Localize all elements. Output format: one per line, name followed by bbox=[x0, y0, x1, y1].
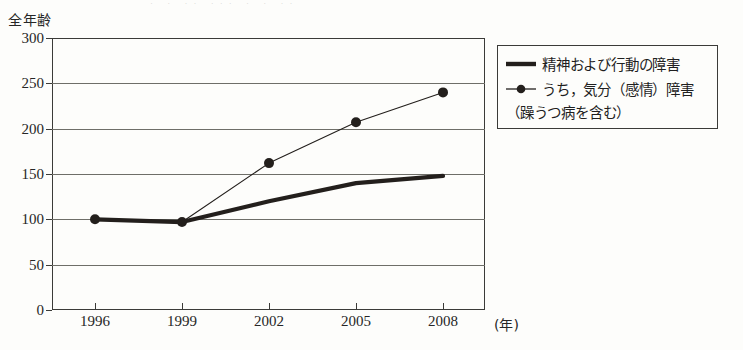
x-axis-tick-mark bbox=[269, 303, 270, 310]
y-axis-tick-label: 300 bbox=[22, 31, 45, 46]
x-axis-tick-label: 1999 bbox=[167, 314, 197, 329]
y-axis-tick-label: 0 bbox=[37, 303, 45, 318]
data-point-marker bbox=[438, 87, 448, 97]
y-axis-tick-label: 200 bbox=[22, 121, 45, 136]
x-axis-tick-label: 2005 bbox=[341, 314, 371, 329]
y-axis-tick-mark bbox=[46, 219, 52, 220]
thick-line-sample-icon bbox=[504, 55, 538, 73]
x-axis-tick-mark bbox=[443, 303, 444, 310]
x-axis-unit-label: (年) bbox=[494, 314, 519, 334]
legend-label-1-continuation: （躁うつ病を含む） bbox=[504, 101, 717, 126]
y-axis-tick-mark bbox=[46, 83, 52, 84]
legend-label-1: うち，気分（感情）障害 bbox=[542, 78, 694, 99]
legend-label-0: 精神および行動の障害 bbox=[542, 53, 680, 74]
series-line bbox=[95, 176, 443, 222]
y-axis-tick-mark bbox=[46, 174, 52, 175]
plot-area bbox=[52, 38, 485, 310]
legend-item-0: 精神および行動の障害 bbox=[504, 51, 717, 76]
y-axis-tick-label: 250 bbox=[22, 76, 45, 91]
data-point-marker bbox=[351, 117, 361, 127]
y-axis-tick-label: 150 bbox=[22, 167, 45, 182]
data-point-marker bbox=[264, 158, 274, 168]
y-axis-tick-mark bbox=[46, 38, 52, 39]
chart-unit-caption: 全年齢 bbox=[8, 9, 52, 29]
chart-legend: 精神および行動の障害 うち，気分（感情）障害 （躁うつ病を含む） bbox=[497, 45, 718, 129]
series-0 bbox=[95, 176, 443, 222]
x-axis-tick-label: 2002 bbox=[254, 314, 284, 329]
x-axis-tick-mark bbox=[95, 303, 96, 310]
line-chart: 全年齢 050100150200250300 19961999200220052… bbox=[0, 0, 743, 350]
x-axis-tick-mark bbox=[182, 303, 183, 310]
series-1 bbox=[90, 87, 448, 227]
line-circle-sample-icon bbox=[504, 80, 538, 98]
y-axis-tick-label: 50 bbox=[29, 257, 44, 272]
y-axis-tick-label: 100 bbox=[22, 212, 45, 227]
y-axis-tick-mark bbox=[46, 310, 52, 311]
x-axis-tick-label: 1996 bbox=[80, 314, 110, 329]
series-layer bbox=[52, 38, 485, 310]
legend-item-1: うち，気分（感情）障害 bbox=[504, 76, 717, 101]
y-axis-tick-mark bbox=[46, 129, 52, 130]
x-axis-tick-mark bbox=[356, 303, 357, 310]
y-axis-tick-mark bbox=[46, 265, 52, 266]
x-axis-tick-label: 2008 bbox=[428, 314, 458, 329]
